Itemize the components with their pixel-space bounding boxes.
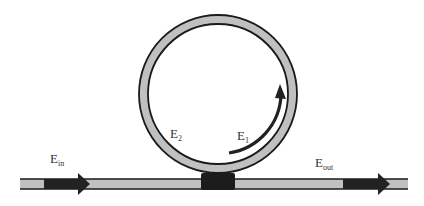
ring-resonator-diagram: Ein Eout E2 E1: [0, 0, 424, 206]
label-e2: E2: [170, 126, 182, 143]
label-e-in: Ein: [50, 151, 64, 168]
label-e1: E1: [237, 128, 249, 145]
coupler-block: [201, 173, 235, 190]
label-e-out: Eout: [315, 155, 334, 172]
input-arrow-icon: [44, 173, 90, 195]
output-arrow-icon: [343, 173, 390, 195]
ring-resonator: [139, 15, 297, 173]
